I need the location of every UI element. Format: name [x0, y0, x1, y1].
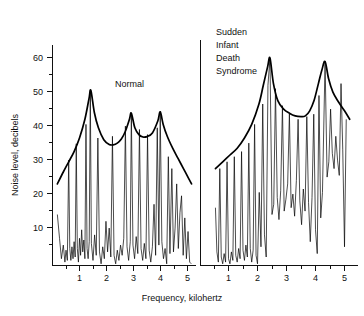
- plot-canvas: 60 50 40 30 20 10 Noise level, decibels …: [0, 0, 364, 316]
- sids-spectrum-trace: [215, 58, 346, 264]
- right-x-tick-label-1: 1: [226, 273, 231, 283]
- y-tick-label-50: 50: [33, 87, 43, 97]
- left-x-tick-label-1: 1: [77, 273, 82, 283]
- right-x-tick-label-3: 3: [284, 273, 289, 283]
- y-tick-label-20: 20: [33, 189, 43, 199]
- y-tick-label-40: 40: [33, 121, 43, 131]
- y-tick-label-60: 60: [33, 53, 43, 63]
- normal-spectrum-trace: [57, 90, 191, 263]
- left-x-tick-label-3: 3: [131, 273, 136, 283]
- y-tick-label-30: 30: [33, 155, 43, 165]
- y-axis-ticks: [47, 58, 53, 245]
- y-tick-label-10: 10: [33, 223, 43, 233]
- left-x-tick-label-5: 5: [185, 273, 190, 283]
- right-x-tick-label-2: 2: [255, 273, 260, 283]
- left-panel-x-ticks: [66, 266, 188, 272]
- left-x-tick-label-2: 2: [104, 273, 109, 283]
- right-panel-label-line1: Sudden: [216, 27, 247, 37]
- right-x-tick-label-5: 5: [342, 273, 347, 283]
- right-panel-label-line3: Death: [216, 53, 240, 63]
- right-panel-label-line2: Infant: [216, 40, 239, 50]
- spectral-comparison-figure: 60 50 40 30 20 10 Noise level, decibels …: [0, 0, 364, 316]
- right-panel-x-ticks: [214, 266, 345, 272]
- y-axis-title: Noise level, decibels: [10, 113, 20, 196]
- x-axis-title: Frequency, kilohertz: [142, 293, 223, 303]
- right-panel-label-line4: Syndrome: [216, 66, 257, 76]
- left-x-tick-label-4: 4: [158, 273, 163, 283]
- right-x-tick-label-4: 4: [313, 273, 318, 283]
- left-panel-label: Normal: [115, 79, 144, 89]
